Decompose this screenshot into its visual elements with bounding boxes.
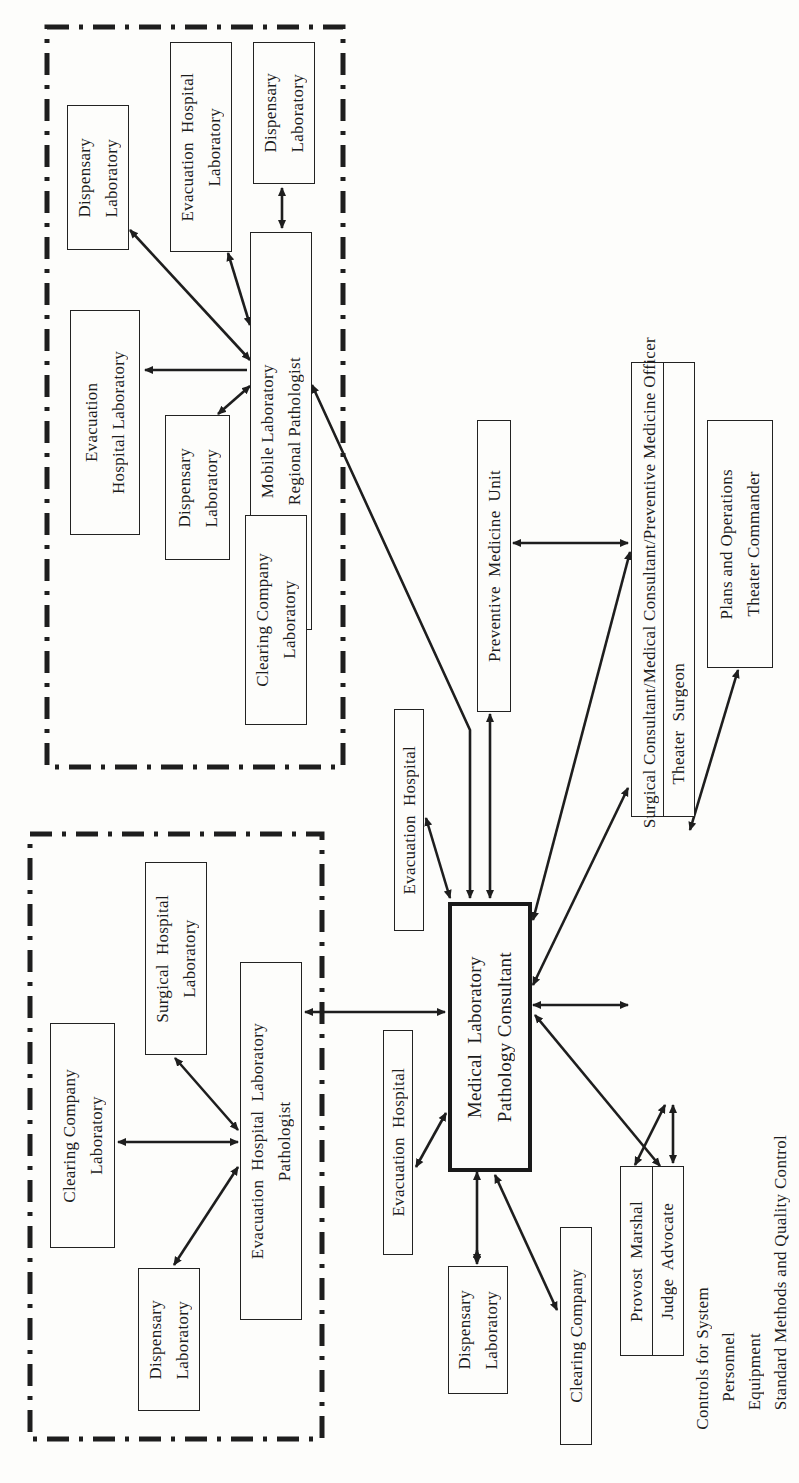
- controls-item-equipment: Equipment: [742, 1333, 768, 1410]
- edge-provost-surgical: [635, 1105, 665, 1165]
- node-label: Surgical Consultant/Medical Consultant/P…: [636, 337, 663, 828]
- node-label: Preventive Medicine Unit: [481, 470, 508, 662]
- top-dispensary-lab-1: Dispensary Laboratory: [67, 105, 129, 250]
- theater-surgeon-row: Theater Surgeon: [663, 363, 695, 816]
- node-label: Evacuation Hospital Laboratory: [174, 73, 228, 222]
- node-label: Evacuation Hospital: [385, 1068, 412, 1217]
- edge-medlab-judge: [535, 1015, 660, 1166]
- node-label: Evacuation Hospital Laboratory Pathologi…: [244, 1023, 298, 1259]
- node-label: Dispensary Laboratory: [257, 73, 311, 152]
- node-label: Provost Marshal: [623, 1201, 650, 1322]
- controls-item-standard-methods: Standard Methods and Quality Control: [768, 1135, 794, 1410]
- node-label: Dispensary Laboratory: [142, 1300, 196, 1379]
- edge-pathologist-surgicallab: [175, 1058, 238, 1130]
- edge-surgical-medlab-2: [533, 788, 628, 985]
- node-label: Dispensary Laboratory: [451, 1290, 505, 1369]
- edge-mobile-evaclab1: [228, 253, 250, 325]
- top-evac-hospital-lab-1: Evacuation Hospital Laboratory: [170, 42, 232, 252]
- mid-dispensary-lab: Dispensary Laboratory: [448, 1266, 508, 1394]
- edge-mobile-dispensary3: [218, 386, 250, 414]
- node-label: Clearing Company Laboratory: [249, 553, 303, 687]
- bottom-evac-hospital-lab-pathologist: Evacuation Hospital Laboratory Pathologi…: [240, 962, 302, 1320]
- node-label: Judge Advocate: [654, 1203, 681, 1320]
- bottom-clearing-company-lab: Clearing Company Laboratory: [50, 1023, 115, 1248]
- top-clearing-company-lab: Clearing Company Laboratory: [245, 515, 307, 725]
- surgical-consultant-theater-surgeon: Surgical Consultant/Medical Consultant/P…: [631, 362, 695, 817]
- node-label: Clearing Company Laboratory: [56, 1069, 110, 1203]
- node-label: Dispensary Laboratory: [71, 138, 125, 217]
- top-dispensary-lab-3: Dispensary Laboratory: [165, 415, 230, 560]
- preventive-medicine-unit: Preventive Medicine Unit: [477, 420, 511, 712]
- node-label: Mobile Laboratory Regional Pathologist: [254, 357, 308, 505]
- controls-for-system-note: Controls for System Personnel Equipment …: [690, 1085, 799, 1430]
- controls-item-personnel: Personnel: [716, 1332, 742, 1402]
- judge-advocate-row: Judge Advocate: [652, 1167, 684, 1355]
- evac-hospital-upper: Evacuation Hospital: [394, 709, 424, 931]
- edge-pathologist-dispensary: [174, 1167, 238, 1265]
- node-label: Evacuation Hospital: [396, 746, 423, 895]
- node-label: Plans and Operations Theater Commander: [713, 469, 767, 619]
- provost-marshal-judge-advocate: Provost Marshal Judge Advocate: [620, 1166, 684, 1356]
- node-label: Clearing Company: [563, 1269, 590, 1403]
- edge-surgical-medlab-1: [533, 552, 630, 920]
- top-evac-hospital-lab-2: Evacuation Hospital Laboratory: [70, 310, 140, 535]
- provost-marshal-row: Provost Marshal: [621, 1167, 652, 1355]
- clearing-company: Clearing Company: [560, 1227, 592, 1445]
- bottom-surgical-hospital-lab: Surgical Hospital Laboratory: [145, 862, 207, 1055]
- edge-evacupper-medlab: [426, 818, 450, 898]
- node-label: Theater Surgeon: [665, 663, 692, 785]
- surgical-consultant-row: Surgical Consultant/Medical Consultant/P…: [632, 363, 663, 816]
- node-label: Surgical Hospital Laboratory: [149, 895, 203, 1023]
- medical-laboratory-pathology-consultant: Medical Laboratory Pathology Consultant: [448, 902, 532, 1172]
- node-label: Dispensary Laboratory: [171, 448, 225, 527]
- node-label: Evacuation Hospital Laboratory: [78, 351, 132, 494]
- edge-evaclower-medlab: [416, 1113, 446, 1167]
- evac-hospital-lower: Evacuation Hospital: [383, 1030, 413, 1255]
- controls-title: Controls for System: [690, 1287, 716, 1430]
- edge-mobile-medlab: [312, 385, 470, 898]
- node-label: Medical Laboratory Pathology Consultant: [460, 952, 520, 1122]
- edge-plans-surgical: [690, 670, 738, 830]
- plans-and-operations: Plans and Operations Theater Commander: [707, 420, 773, 668]
- top-dispensary-lab-2: Dispensary Laboratory: [253, 42, 315, 184]
- bottom-dispensary-lab: Dispensary Laboratory: [138, 1268, 200, 1411]
